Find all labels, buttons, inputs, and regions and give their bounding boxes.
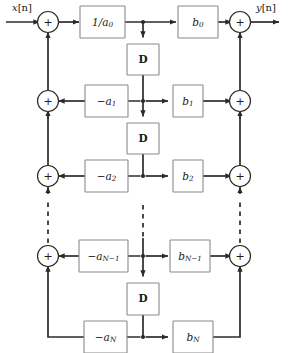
box-label-1-over-a0-sub: 0 bbox=[108, 20, 113, 29]
box-gain-neg-a1[interactable]: −a1 bbox=[85, 85, 128, 117]
adder-left-1[interactable]: + bbox=[38, 91, 59, 112]
adder-right-2-symbol: + bbox=[235, 170, 244, 183]
adder-left-3[interactable]: + bbox=[38, 246, 59, 267]
adder-right-1[interactable]: + bbox=[230, 91, 251, 112]
ellipsis-group bbox=[48, 198, 240, 243]
adder-left-2[interactable]: + bbox=[38, 166, 59, 187]
delay-label-1: D bbox=[138, 53, 147, 65]
adder-left-3-symbol: + bbox=[43, 250, 52, 263]
signal-flow-diagram: 1/a0 −a1 −a2 −aN−1 −aN b0 b1 b2 bbox=[0, 0, 288, 353]
delay-label-2: D bbox=[138, 132, 147, 144]
box-label-b0-sub: 0 bbox=[199, 20, 204, 29]
wire-bN-to-adder3 bbox=[213, 266, 240, 338]
box-label-b2-sub: 2 bbox=[188, 174, 194, 183]
adder-right-1-symbol: + bbox=[235, 95, 244, 108]
box-gain-neg-aN-1[interactable]: −aN−1 bbox=[79, 240, 128, 272]
adder-left-0-symbol: + bbox=[43, 16, 52, 29]
box-gain-b2[interactable]: b2 bbox=[173, 160, 203, 192]
junction-dot-row1 bbox=[141, 99, 145, 103]
adder-left-0[interactable]: + bbox=[38, 12, 59, 33]
input-signal-index: [n] bbox=[18, 2, 32, 13]
box-gain-b1[interactable]: b1 bbox=[173, 85, 203, 117]
box-label-neg-a1-sub: 1 bbox=[112, 99, 117, 108]
box-delay-N[interactable]: D bbox=[127, 283, 159, 315]
input-signal-label: x[n] bbox=[12, 2, 32, 13]
box-label-neg-a1-base: −a bbox=[97, 95, 112, 107]
box-delay-1[interactable]: D bbox=[127, 44, 159, 75]
box-label-b1-sub: 1 bbox=[189, 99, 194, 108]
adder-left-2-symbol: + bbox=[43, 170, 52, 183]
box-gain-bN-1[interactable]: bN−1 bbox=[170, 240, 210, 272]
box-label-neg-aN-1-base: −a bbox=[88, 250, 103, 262]
adder-right-0-symbol: + bbox=[235, 16, 244, 29]
adder-right-0[interactable]: + bbox=[230, 12, 251, 33]
adder-left-1-symbol: + bbox=[43, 95, 52, 108]
adder-right-2[interactable]: + bbox=[230, 166, 251, 187]
box-gain-b0[interactable]: b0 bbox=[178, 6, 218, 38]
box-label-bN-1-sub: N−1 bbox=[184, 254, 202, 263]
box-label-neg-a2-sub: 2 bbox=[111, 174, 117, 183]
diagram-canvas: 1/a0 −a1 −a2 −aN−1 −aN b0 b1 b2 bbox=[0, 0, 288, 353]
box-label-neg-aN-sub: N bbox=[109, 335, 117, 344]
delay-label-N: D bbox=[138, 292, 147, 304]
box-label-neg-a2-base: −a bbox=[97, 170, 112, 182]
output-signal-index: [n] bbox=[262, 2, 276, 13]
junction-dot-row4 bbox=[141, 335, 145, 339]
box-delay-2[interactable]: D bbox=[127, 123, 159, 154]
adder-right-3[interactable]: + bbox=[230, 246, 251, 267]
box-label-bN-sub: N bbox=[192, 335, 200, 344]
junction-dot-row3 bbox=[141, 254, 145, 258]
box-label-neg-aN-1-sub: N−1 bbox=[102, 254, 120, 263]
junction-dot-row0 bbox=[141, 20, 145, 24]
box-gain-1-over-a0[interactable]: 1/a0 bbox=[80, 6, 125, 38]
adder-right-3-symbol: + bbox=[235, 250, 244, 263]
box-gain-bN[interactable]: bN bbox=[173, 321, 213, 353]
wire-aN-feedback-to-adder3 bbox=[48, 266, 84, 338]
junction-dot-row2 bbox=[141, 174, 145, 178]
box-label-neg-aN-base: −a bbox=[95, 331, 110, 343]
box-label-1-over-a0-base: 1/a bbox=[92, 16, 108, 28]
output-signal-label: y[n] bbox=[255, 2, 276, 13]
box-gain-neg-a2[interactable]: −a2 bbox=[85, 160, 128, 192]
box-gain-neg-aN[interactable]: −aN bbox=[84, 321, 127, 353]
